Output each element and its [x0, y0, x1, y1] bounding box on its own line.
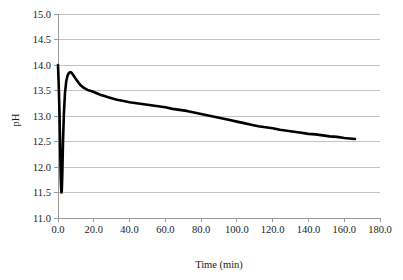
x-tick-label-60.0: 60.0	[156, 224, 174, 235]
y-tick-label-13.0: 13.0	[33, 111, 51, 122]
data-series	[58, 65, 355, 193]
x-tick-label-40.0: 40.0	[120, 224, 138, 235]
y-tick-label-14.0: 14.0	[33, 60, 51, 71]
y-tick-label-13.5: 13.5	[33, 85, 51, 96]
y-tick-label-12.0: 12.0	[33, 162, 51, 173]
y-tick-label-14.5: 14.5	[33, 34, 51, 45]
y-tick-label-15.0: 15.0	[33, 9, 51, 20]
x-tick-label-180.0: 180.0	[368, 224, 392, 235]
x-axis-title: Time (min)	[195, 259, 243, 271]
y-tick-label-11.0: 11.0	[33, 213, 51, 224]
x-tick-label-0.0: 0.0	[51, 224, 64, 235]
x-tick-label-160.0: 160.0	[332, 224, 356, 235]
ph-vs-time-chart: 11.011.512.012.513.013.514.014.515.0 0.0…	[0, 0, 403, 280]
y-tick-label-12.5: 12.5	[33, 136, 51, 147]
x-tick-label-20.0: 20.0	[85, 224, 103, 235]
chart-plot-area: 11.011.512.012.513.013.514.014.515.0 0.0…	[0, 0, 403, 280]
y-axis-title: pH	[10, 113, 21, 126]
x-tick-label-140.0: 140.0	[297, 224, 321, 235]
y-tick-labels: 11.011.512.012.513.013.514.014.515.0	[33, 9, 51, 224]
x-tick-label-80.0: 80.0	[192, 224, 210, 235]
series-line-0	[58, 65, 355, 193]
y-tick-label-11.5: 11.5	[33, 187, 51, 198]
gridlines	[58, 14, 380, 218]
x-tick-label-100.0: 100.0	[225, 224, 249, 235]
x-tick-label-120.0: 120.0	[261, 224, 285, 235]
x-tick-labels: 0.020.040.060.080.0100.0120.0140.0160.01…	[51, 224, 391, 235]
